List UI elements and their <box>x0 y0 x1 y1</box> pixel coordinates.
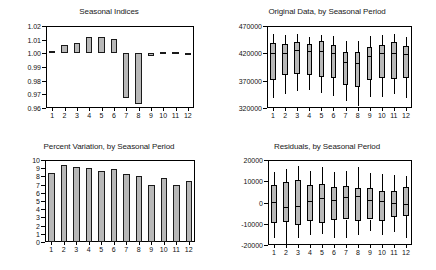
bar <box>111 169 118 242</box>
x-tick-mark <box>274 245 275 248</box>
x-tick-mark <box>189 242 190 245</box>
median-line <box>403 204 409 205</box>
x-tick-mark <box>176 242 177 245</box>
box <box>379 191 385 221</box>
x-tick-mark <box>322 245 323 248</box>
y-tick-label: 6 <box>26 189 40 196</box>
x-tick-label: 7 <box>124 112 128 119</box>
box <box>403 187 409 216</box>
y-tick-label: 0.98 <box>19 77 41 84</box>
x-tick-mark <box>51 242 52 245</box>
whisker-lower <box>322 223 323 235</box>
whisker-upper <box>285 35 286 44</box>
y-tick-mark <box>263 81 267 82</box>
y-tick-label: 320000 <box>228 105 262 112</box>
x-tick-label: 6 <box>112 246 116 253</box>
whisker-upper <box>273 34 274 43</box>
bar <box>74 43 80 53</box>
x-tick-mark <box>382 245 383 248</box>
x-tick-label: 9 <box>149 246 153 253</box>
box <box>379 45 385 79</box>
y-tick-label: 1.00 <box>19 50 41 57</box>
x-tick-label: 2 <box>283 112 287 119</box>
bar <box>73 167 80 242</box>
whisker-lower <box>285 75 286 95</box>
box <box>331 45 337 78</box>
box <box>403 46 409 79</box>
x-tick-label: 9 <box>149 112 153 119</box>
box <box>391 42 397 79</box>
whisker-lower <box>309 75 310 91</box>
y-tick-label: 470000 <box>228 23 262 30</box>
x-tick-label: 1 <box>272 249 276 256</box>
y-tick-mark <box>41 193 45 194</box>
box <box>343 52 349 85</box>
box <box>331 187 337 220</box>
x-tick-mark <box>101 242 102 245</box>
panel-title-percent-variation: Percent Variation, by Seasonal Period <box>0 142 218 151</box>
x-tick-label: 10 <box>378 249 386 256</box>
x-tick-mark <box>126 242 127 245</box>
median-line <box>367 56 373 57</box>
bar <box>61 165 68 242</box>
box <box>319 184 325 223</box>
x-tick-label: 9 <box>368 249 372 256</box>
x-tick-label: 5 <box>100 112 104 119</box>
whisker-lower <box>346 85 347 101</box>
x-tick-mark <box>309 108 310 111</box>
median-line <box>367 200 373 201</box>
y-tick-label: 7 <box>26 181 40 188</box>
box <box>319 41 325 78</box>
x-tick-label: 4 <box>87 112 91 119</box>
y-tick-label: 370000 <box>228 77 262 84</box>
whisker-lower <box>298 225 299 238</box>
median-line <box>294 50 300 51</box>
x-tick-label: 3 <box>75 112 79 119</box>
box <box>282 44 288 75</box>
bar <box>111 39 117 54</box>
x-tick-label: 11 <box>390 112 397 119</box>
whisker-upper <box>297 34 298 43</box>
whisker-lower <box>273 80 274 98</box>
x-tick-mark <box>126 108 127 111</box>
median-line <box>355 196 361 197</box>
whisker-upper <box>346 171 347 186</box>
bar <box>173 185 180 242</box>
whisker-upper <box>394 175 395 192</box>
x-tick-mark <box>406 245 407 248</box>
y-tick-mark <box>42 108 46 109</box>
x-tick-mark <box>64 242 65 245</box>
whisker-lower <box>274 223 275 238</box>
bar <box>135 53 141 103</box>
whisker-lower <box>382 221 383 236</box>
y-tick-mark <box>42 94 46 95</box>
whisker-lower <box>394 79 395 94</box>
whisker-upper <box>358 167 359 188</box>
median-line <box>391 203 397 204</box>
whisker-upper <box>358 41 359 52</box>
x-tick-mark <box>114 242 115 245</box>
bar <box>172 52 178 54</box>
y-tick-label: 0 <box>26 239 40 246</box>
bar <box>186 181 193 243</box>
y-tick-label: 8 <box>26 173 40 180</box>
bar <box>148 185 155 242</box>
y-tick-mark <box>41 160 45 161</box>
whisker-lower <box>358 87 359 106</box>
y-tick-label: 20000 <box>231 157 263 164</box>
whisker-upper <box>333 36 334 45</box>
whisker-upper <box>274 172 275 185</box>
median-line <box>271 202 277 203</box>
y-tick-mark <box>41 168 45 169</box>
x-tick-label: 7 <box>124 246 128 253</box>
x-tick-label: 10 <box>159 112 167 119</box>
x-tick-mark <box>346 245 347 248</box>
bar <box>148 53 154 56</box>
x-tick-label: 6 <box>112 112 116 119</box>
box <box>355 52 361 88</box>
y-tick-label: 4 <box>26 206 40 213</box>
bar <box>160 52 166 54</box>
x-tick-mark <box>358 108 359 111</box>
y-tick-mark <box>42 40 46 41</box>
whisker-upper <box>406 176 407 187</box>
